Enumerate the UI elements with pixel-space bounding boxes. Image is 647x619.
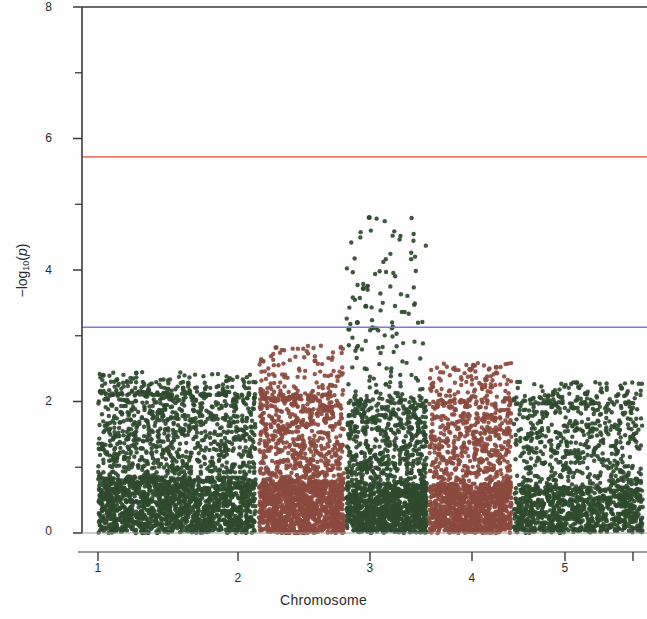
y-tick-label-8: 8 (28, 0, 52, 14)
y-axis-title-prefix: −log (14, 271, 30, 298)
y-tick-label-2: 2 (28, 394, 52, 408)
x-tick-label-4: 4 (462, 571, 482, 585)
data-points-layer (96, 215, 645, 535)
x-tick-label-2: 2 (228, 571, 248, 585)
plot-canvas (0, 0, 647, 619)
y-tick-label-0: 0 (28, 524, 52, 538)
y-axis-title: −log10(p) (14, 201, 31, 341)
y-tick-label-4: 4 (28, 263, 52, 277)
x-tick-label-5: 5 (555, 561, 575, 575)
threshold-lines-layer (82, 157, 647, 327)
y-tick-label-6: 6 (28, 131, 52, 145)
y-axis-title-open-paren: ( (14, 256, 30, 261)
y-axis-title-subscript: 10 (21, 261, 31, 271)
y-axis-title-variable: p (14, 248, 30, 256)
x-tick-label-3: 3 (360, 561, 380, 575)
x-axis-title: Chromosome (0, 592, 647, 608)
y-axis-title-close-paren: ) (14, 244, 30, 249)
x-tick-label-1: 1 (88, 561, 108, 575)
manhattan-plot-figure: 8 6 4 2 0 1 2 3 4 5 Chromosome −log10(p) (0, 0, 647, 619)
